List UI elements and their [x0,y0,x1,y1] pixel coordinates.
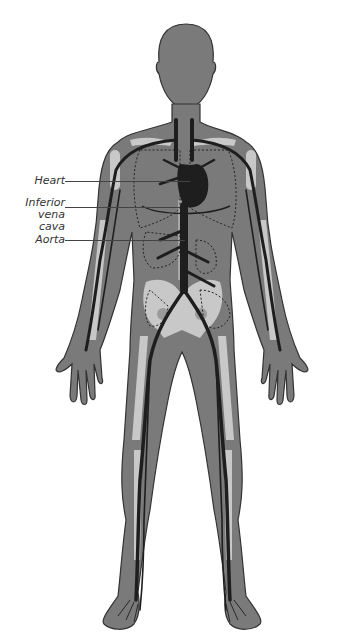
leader-aorta [65,240,185,241]
label-heart: Heart [20,175,65,187]
label-ivc-line2: vena cava [10,209,65,233]
label-heart-text: Heart [34,174,65,187]
leader-heart [65,181,190,182]
label-aorta-text: Aorta [35,233,65,246]
leader-inferior-vena-cava [65,207,180,208]
label-inferior-vena-cava: Inferior vena cava [10,197,65,233]
label-aorta: Aorta [20,234,65,246]
body-diagram [0,0,351,644]
